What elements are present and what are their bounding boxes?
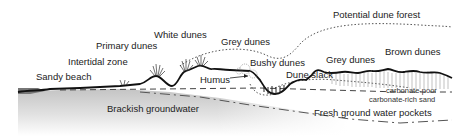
label-carbonate-poor: carbonate-poor <box>386 86 437 95</box>
grass-tuft-primary <box>150 64 165 76</box>
label-grey-dunes-left: Grey dunes <box>221 36 270 47</box>
label-brown-dunes: Brown dunes <box>385 46 441 57</box>
label-intertidal-zone: Intertidal zone <box>68 56 128 67</box>
label-potential-dune-forest: Potential dune forest <box>333 9 421 20</box>
label-grey-dunes-right: Grey dunes <box>326 54 375 65</box>
label-carbonate-rich-sand: carbonate-rich sand <box>369 95 435 104</box>
label-sandy-beach: Sandy beach <box>36 71 91 82</box>
label-brackish-groundwater: Brackish groundwater <box>107 103 199 114</box>
humus-arrow <box>230 74 248 78</box>
label-humus: Humus <box>200 74 230 85</box>
label-white-dunes: White dunes <box>154 29 207 40</box>
grass-tuft-intertidal <box>120 80 129 85</box>
label-primary-dunes: Primary dunes <box>96 40 157 51</box>
label-fresh-ground-water-pockets: Fresh ground water pockets <box>314 107 432 118</box>
dune-cross-section-diagram: Sandy beach Intertidal zone Primary dune… <box>0 0 458 136</box>
grass-tuft-white-2 <box>195 55 208 66</box>
label-bushy-dunes: Bushy dunes <box>250 57 305 68</box>
label-dune-slack: Dune slack <box>286 69 333 80</box>
